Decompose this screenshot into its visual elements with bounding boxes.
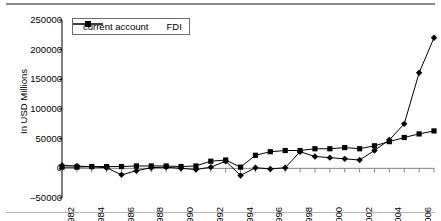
- data-point-FDI: [327, 146, 332, 151]
- data-point-FDI: [193, 163, 198, 168]
- data-point-FDI: [149, 163, 154, 168]
- data-point-FDI: [59, 165, 64, 170]
- data-point-FDI: [164, 163, 169, 168]
- data-point-current-account: [252, 165, 258, 171]
- data-point-FDI: [312, 146, 317, 151]
- data-point-FDI: [223, 157, 228, 162]
- plot-area: [0, 0, 441, 221]
- data-point-current-account: [431, 35, 437, 41]
- data-point-FDI: [238, 165, 243, 170]
- data-point-current-account: [118, 172, 124, 178]
- data-point-FDI: [402, 135, 407, 140]
- data-point-FDI: [253, 153, 258, 158]
- data-point-FDI: [387, 139, 392, 144]
- series-line-FDI: [62, 131, 434, 167]
- data-point-current-account: [327, 154, 333, 160]
- data-point-FDI: [104, 164, 109, 169]
- data-point-FDI: [208, 159, 213, 164]
- data-point-FDI: [119, 164, 124, 169]
- data-point-current-account: [342, 156, 348, 162]
- data-point-current-account: [312, 153, 318, 159]
- data-point-FDI: [134, 163, 139, 168]
- legend-label-fdi: FDI: [162, 21, 181, 32]
- data-point-FDI: [431, 128, 436, 133]
- data-point-FDI: [283, 148, 288, 153]
- chart-figure: In USD Millions 250000200000150000100000…: [0, 0, 441, 221]
- data-point-current-account: [356, 157, 362, 163]
- data-point-FDI: [342, 145, 347, 150]
- series-line-current-account: [62, 38, 434, 176]
- data-point-FDI: [372, 143, 377, 148]
- data-point-FDI: [297, 148, 302, 153]
- data-point-FDI: [178, 164, 183, 169]
- data-point-FDI: [74, 165, 79, 170]
- square-marker-icon: [73, 19, 103, 29]
- data-point-current-account: [267, 166, 273, 172]
- chart-legend: current account FDI: [72, 18, 190, 35]
- data-point-FDI: [357, 146, 362, 151]
- data-point-FDI: [268, 149, 273, 154]
- data-point-current-account: [208, 164, 214, 170]
- data-point-FDI: [89, 164, 94, 169]
- data-point-current-account: [416, 70, 422, 76]
- data-point-FDI: [417, 131, 422, 136]
- legend-item-fdi: FDI: [162, 21, 181, 32]
